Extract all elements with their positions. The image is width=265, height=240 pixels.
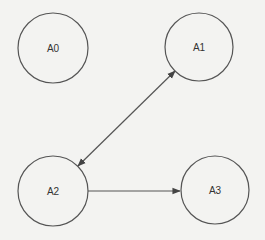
node-a3-label: A3: [209, 185, 222, 196]
edge-a2-a1: [78, 71, 175, 166]
node-a3[interactable]: A3: [181, 156, 249, 224]
node-a1[interactable]: A1: [165, 13, 233, 81]
node-a1-label: A1: [193, 42, 206, 53]
node-a0-label: A0: [47, 43, 60, 54]
node-a2-label: A2: [47, 186, 60, 197]
graph-canvas: A0 A1 A2 A3: [0, 0, 265, 240]
node-a2[interactable]: A2: [18, 156, 88, 226]
node-a0[interactable]: A0: [18, 13, 88, 83]
